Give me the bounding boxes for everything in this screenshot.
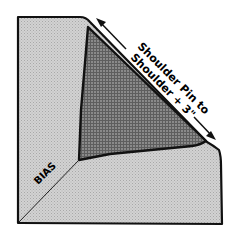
fabric-fold-diagram: Shoulder Pin to Shoulder + 3" BIAS xyxy=(0,0,235,240)
